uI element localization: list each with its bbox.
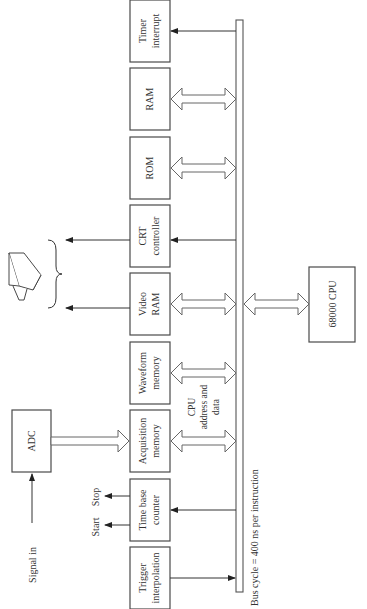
block-crt-controller: CRT controller bbox=[130, 205, 170, 267]
block-rom: ROM bbox=[130, 137, 170, 199]
block-label-line2: interrupt bbox=[150, 14, 161, 49]
crt-monitor-icon bbox=[9, 253, 41, 300]
bus-cycle-caption: Bus cycle = 400 ns per instruction bbox=[249, 469, 260, 606]
block-label-line1: Time base bbox=[137, 489, 148, 531]
block-label: RAM bbox=[144, 88, 155, 111]
block-label-line2: controller bbox=[150, 216, 161, 256]
block-label-line1: Video bbox=[137, 292, 148, 316]
cpu-bus bbox=[236, 20, 243, 592]
block-video-ram: Video RAM bbox=[130, 273, 170, 335]
cpu-label: 68000 CPU bbox=[327, 280, 338, 328]
block-acquisition-memory: Acquisition memory bbox=[130, 410, 170, 472]
block-trigger-interpolation: Trigger interpolation bbox=[130, 547, 170, 609]
bus-label: CPU address and data bbox=[187, 384, 221, 429]
block-label-line1: Timer bbox=[137, 18, 148, 43]
bidir-arrow-waveform bbox=[171, 362, 236, 384]
block-time-base-counter: Time base counter bbox=[130, 479, 170, 541]
bidir-arrow-rom bbox=[171, 157, 236, 179]
block-label-line1: Acquisition bbox=[137, 418, 148, 465]
bidir-arrow-video-ram bbox=[171, 293, 236, 315]
block-label-line2: interpolation bbox=[150, 552, 161, 603]
block-label-line2: memory bbox=[150, 356, 161, 389]
block-label-line2: RAM bbox=[150, 293, 161, 316]
adc-label: ADC bbox=[26, 430, 37, 451]
hollow-arrow-adc-to-acquisition bbox=[51, 430, 129, 452]
block-label-line2: counter bbox=[150, 494, 161, 525]
start-label: Start bbox=[90, 517, 101, 536]
signal-in-label: Signal in bbox=[27, 547, 38, 583]
bus-label-line2: address and bbox=[199, 384, 209, 429]
block-label-line1: CRT bbox=[137, 227, 148, 246]
bidir-arrow-acquisition bbox=[171, 430, 236, 452]
bus-label-line1: CPU bbox=[187, 398, 197, 417]
block-diagram: Timer interrupt RAM ROM CRT controller V… bbox=[0, 0, 367, 609]
block-label: ROM bbox=[144, 157, 155, 180]
block-timer-interrupt: Timer interrupt bbox=[130, 0, 170, 62]
block-label-line1: Trigger bbox=[137, 563, 148, 593]
brace bbox=[48, 240, 62, 308]
block-label-line2: memory bbox=[150, 424, 161, 457]
block-label-line1: Waveform bbox=[137, 352, 148, 394]
bus-label-line3: data bbox=[211, 398, 221, 415]
bidir-arrow-ram bbox=[171, 88, 236, 110]
stop-label: Stop bbox=[90, 488, 101, 506]
bidir-arrow-cpu bbox=[244, 293, 309, 315]
block-ram: RAM bbox=[130, 68, 170, 130]
block-waveform-memory: Waveform memory bbox=[130, 342, 170, 404]
block-adc: ADC bbox=[12, 410, 51, 472]
block-68000-cpu: 68000 CPU bbox=[309, 267, 355, 342]
